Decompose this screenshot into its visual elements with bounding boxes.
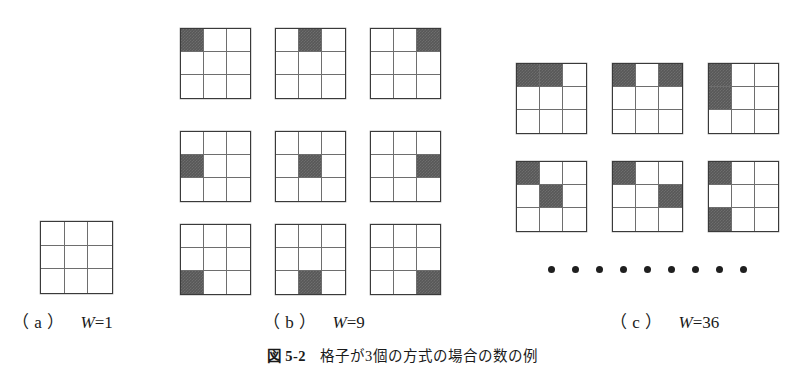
- grid-cell-empty: [276, 225, 299, 248]
- grid-cell-empty: [204, 248, 227, 271]
- grid-c-4: [516, 161, 587, 232]
- ellipsis-dot: [668, 266, 675, 273]
- grid-cell-empty: [322, 178, 345, 201]
- grid-cell-empty: [299, 52, 322, 75]
- panel-formula-a: W=1: [81, 313, 113, 332]
- grid-cell-empty: [394, 225, 417, 248]
- grid-cell-empty: [563, 185, 586, 208]
- grid-cell-empty: [322, 29, 345, 52]
- panel-tag-b: （ b ）: [263, 313, 317, 332]
- grid-cell-empty: [371, 132, 394, 155]
- figure-caption-label: 図 5-2: [267, 348, 306, 364]
- grid-cell-empty: [709, 185, 732, 208]
- ellipsis-dot: [572, 266, 579, 273]
- grid-cell-empty: [322, 52, 345, 75]
- grid-cell-filled: [299, 155, 322, 178]
- grid-cell-empty: [394, 271, 417, 294]
- grid-cell-empty: [636, 162, 659, 185]
- grid-cell-empty: [299, 248, 322, 271]
- grid-cell-empty: [755, 208, 778, 231]
- grid-cell-empty: [394, 155, 417, 178]
- panel-formula-c: W=36: [679, 313, 720, 332]
- grid-cell-filled: [540, 64, 563, 87]
- grid-cell-empty: [417, 52, 440, 75]
- grid-cell-empty: [394, 75, 417, 98]
- formula-value: 36: [702, 313, 719, 332]
- grid-c-3: [708, 63, 779, 134]
- formula-value: 9: [356, 313, 365, 332]
- grid-c-1: [516, 63, 587, 134]
- grid-cell-empty: [659, 87, 682, 110]
- grid-cell-empty: [299, 178, 322, 201]
- grid-cell-empty: [613, 87, 636, 110]
- grid-cell-empty: [322, 248, 345, 271]
- grid-cell-empty: [227, 52, 250, 75]
- grid-cell-empty: [322, 75, 345, 98]
- formula-variable: W: [333, 313, 347, 332]
- grid-cell-empty: [276, 155, 299, 178]
- grid-cell-empty: [322, 271, 345, 294]
- grid-cell-empty: [88, 222, 112, 246]
- grid-cell-filled: [181, 271, 204, 294]
- grid-b-7: [180, 224, 251, 295]
- grid-cell-empty: [540, 87, 563, 110]
- grid-cell-filled: [709, 162, 732, 185]
- grid-b-8: [275, 224, 346, 295]
- formula-variable: W: [679, 313, 693, 332]
- grid-cell-filled: [299, 29, 322, 52]
- grid-cell-empty: [276, 132, 299, 155]
- grid-cell-empty: [322, 132, 345, 155]
- grid-cell-filled: [613, 64, 636, 87]
- grid-cell-empty: [659, 110, 682, 133]
- grid-cell-empty: [227, 178, 250, 201]
- panel-tag-a: （ a ）: [12, 313, 65, 332]
- grid-cell-empty: [636, 110, 659, 133]
- ellipsis-dot: [716, 266, 723, 273]
- grid-cell-empty: [204, 271, 227, 294]
- grid-cell-filled: [709, 64, 732, 87]
- grid-cell-filled: [517, 162, 540, 185]
- grid-cell-empty: [417, 178, 440, 201]
- grid-cell-empty: [563, 87, 586, 110]
- grid-c-5: [612, 161, 683, 232]
- grid-cell-empty: [417, 248, 440, 271]
- grid-cell-empty: [371, 29, 394, 52]
- grid-cell-empty: [181, 225, 204, 248]
- grid-cell-empty: [394, 132, 417, 155]
- grid-cell-filled: [417, 155, 440, 178]
- grid-cell-empty: [181, 248, 204, 271]
- ellipsis-dot: [740, 266, 747, 273]
- grid-cell-empty: [276, 29, 299, 52]
- grid-cell-empty: [204, 75, 227, 98]
- grid-cell-empty: [227, 225, 250, 248]
- grid-cell-empty: [371, 75, 394, 98]
- grid-cell-empty: [636, 185, 659, 208]
- grid-cell-empty: [181, 178, 204, 201]
- grid-cell-empty: [394, 52, 417, 75]
- grid-cell-empty: [181, 52, 204, 75]
- grid-cell-empty: [517, 185, 540, 208]
- grid-cell-filled: [659, 185, 682, 208]
- formula-equals: =: [347, 313, 357, 332]
- grid-cell-empty: [276, 75, 299, 98]
- figure-caption-text: 格子が3個の方式の場合の数の例: [320, 348, 538, 364]
- grid-cell-empty: [755, 185, 778, 208]
- grid-cell-empty: [371, 155, 394, 178]
- grid-cell-empty: [65, 246, 89, 270]
- grid-cell-filled: [659, 64, 682, 87]
- grid-cell-empty: [636, 64, 659, 87]
- figure-container: （ a ）W=1（ b ）W=9（ c ）W=36図 5-2格子が3個の方式の場…: [0, 0, 805, 368]
- grid-cell-empty: [563, 162, 586, 185]
- grid-cell-empty: [732, 162, 755, 185]
- ellipsis-dot: [644, 266, 651, 273]
- grid-cell-empty: [732, 64, 755, 87]
- ellipsis-dot: [620, 266, 627, 273]
- grid-b-6: [370, 131, 441, 202]
- grid-cell-empty: [227, 75, 250, 98]
- grid-cell-empty: [755, 110, 778, 133]
- grid-cell-empty: [732, 87, 755, 110]
- panel-tag-c: （ c ）: [610, 313, 663, 332]
- ellipsis-dot: [692, 266, 699, 273]
- grid-cell-empty: [732, 208, 755, 231]
- grid-cell-empty: [299, 225, 322, 248]
